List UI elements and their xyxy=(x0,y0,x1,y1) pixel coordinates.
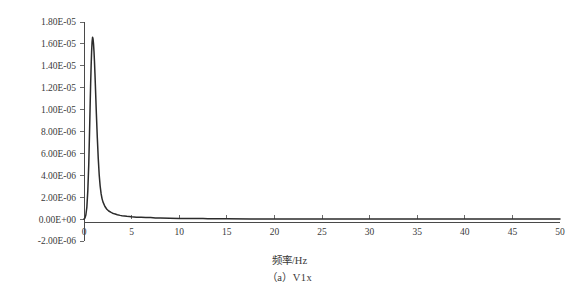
y-tick-label: 1.60E-05 xyxy=(41,39,76,49)
y-tick-label: 2.00E-06 xyxy=(41,193,76,203)
y-tick-label: 1.00E-05 xyxy=(41,105,76,115)
figure-caption: （a）V1x xyxy=(0,269,579,284)
x-tick-label: 10 xyxy=(174,227,184,237)
x-tick-label: 5 xyxy=(129,227,134,237)
psd-figure: 功率谱密度/（mm2/Hz） -2.00E-060.00E+002.00E-06… xyxy=(0,0,579,293)
x-tick-label: 15 xyxy=(222,227,232,237)
x-axis-title: 频率/Hz xyxy=(0,252,579,267)
y-tick-label: 6.00E-06 xyxy=(41,149,76,159)
y-tick-label: 1.80E-05 xyxy=(41,17,76,27)
y-tick-label: 1.20E-05 xyxy=(41,83,76,93)
x-tick-label: 45 xyxy=(508,227,518,237)
x-tick-label: 20 xyxy=(270,227,280,237)
x-axis-title-text: 频率/Hz xyxy=(272,255,307,266)
y-tick-labels: -2.00E-060.00E+002.00E-064.00E-066.00E-0… xyxy=(38,17,77,246)
y-tick-label: -2.00E-06 xyxy=(38,236,77,246)
y-tick-label: 1.40E-05 xyxy=(41,61,76,71)
x-tick-label: 30 xyxy=(365,227,375,237)
x-tick-label: 40 xyxy=(460,227,470,237)
y-tick-label: 8.00E-06 xyxy=(41,127,76,137)
x-tick-label: 25 xyxy=(317,227,327,237)
plot-area: -2.00E-060.00E+002.00E-064.00E-066.00E-0… xyxy=(0,0,579,293)
y-tick-marks xyxy=(80,22,84,241)
y-tick-label: 0.00E+00 xyxy=(39,215,77,225)
x-tick-label: 50 xyxy=(555,227,565,237)
figure-caption-text: （a）V1x xyxy=(267,272,313,283)
x-tick-label: 35 xyxy=(412,227,422,237)
series-line-v1x xyxy=(84,37,560,219)
x-tick-labels: 05101520253035404550 xyxy=(82,227,565,237)
y-tick-label: 4.00E-06 xyxy=(41,171,76,181)
